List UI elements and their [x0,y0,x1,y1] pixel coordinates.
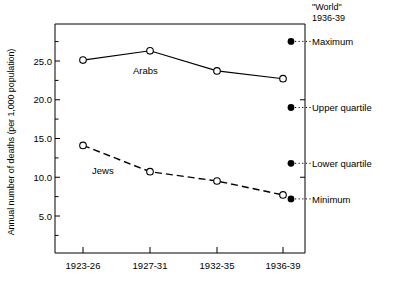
y-major-ticks [55,61,60,216]
data-point-arabs-1923-26 [80,57,87,64]
reference-marker-maximum [288,38,295,45]
reference-marker-upper-quartile [288,104,295,111]
right-axis-ticks [300,100,305,178]
series-annotation-jews: Jews [92,166,114,176]
chart-figure: Annual number of deaths (per 1,000 popul… [0,0,395,284]
legend-label-minimum: Minimum [312,195,351,205]
data-point-arabs-1927-31 [147,48,154,55]
legend-header: "World" 1936-39 [312,2,345,23]
reference-markers [288,38,311,202]
data-point-arabs-1932-35 [214,68,221,75]
reference-marker-lower-quartile [288,160,295,167]
data-point-jews-1923-26 [80,142,87,149]
reference-marker-minimum [288,196,295,203]
legend-header-line2: 1936-39 [312,13,345,24]
legend-label-lower-quartile: Lower quartile [312,159,372,169]
x-major-ticks [83,247,283,253]
legend-label-upper-quartile: Upper quartile [312,103,372,113]
series-annotation-arabs: Arabs [133,66,158,76]
series-arabs [80,48,287,82]
data-point-jews-1936-39 [280,192,287,199]
legend-header-line1: "World" [312,2,345,13]
data-point-arabs-1936-39 [280,75,287,82]
data-point-jews-1932-35 [214,178,221,185]
data-point-jews-1927-31 [147,168,154,175]
legend-label-maximum: Maximum [312,37,353,47]
